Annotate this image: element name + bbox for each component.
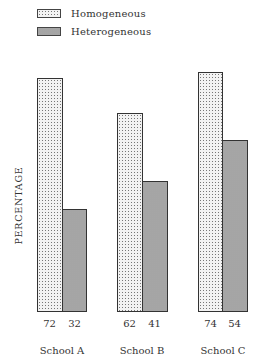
category-label: School C [193, 345, 253, 356]
legend-swatch-homogeneous [37, 9, 61, 18]
value-label: 32 [62, 318, 87, 329]
value-label: 54 [222, 318, 247, 329]
category-label: School B [112, 345, 172, 356]
value-label: 74 [198, 318, 223, 329]
category-label: School A [32, 345, 92, 356]
bar-school-b-homogeneous [117, 113, 143, 312]
value-label: 62 [117, 318, 142, 329]
bar-school-c-heterogeneous [222, 140, 248, 312]
value-label: 72 [37, 318, 62, 329]
value-label: 41 [142, 318, 167, 329]
bar-school-a-heterogeneous [62, 209, 87, 312]
legend-swatch-heterogeneous [37, 27, 61, 36]
legend-label: Homogeneous [71, 8, 146, 19]
bar-school-b-heterogeneous [142, 181, 168, 312]
bar-school-c-homogeneous [198, 72, 223, 312]
y-axis-label: PERCENTAGE [13, 166, 24, 246]
legend-label: Heterogeneous [71, 26, 151, 37]
legend-item-heterogeneous: Heterogeneous [37, 22, 151, 40]
legend-item-homogeneous: Homogeneous [37, 4, 151, 22]
bar-school-a-homogeneous [37, 78, 63, 312]
legend: Homogeneous Heterogeneous [37, 4, 151, 40]
